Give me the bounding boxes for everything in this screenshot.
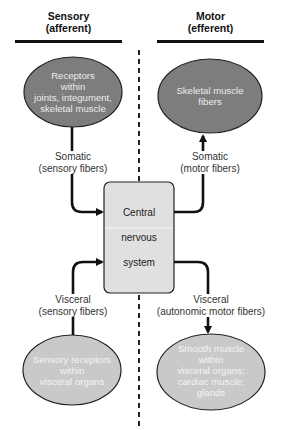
oval-line: visceral organs; [158,365,264,376]
sensory-header-subtitle: (afferent) [15,23,122,35]
motor-header-subtitle: (efferent) [157,23,264,35]
oval-line: fibers [158,96,262,107]
visceral-motor-label: Visceral (autonomic motor fibers) [154,294,268,317]
somatic-receptors-label: Receptors within joints, integument, ske… [23,70,123,114]
cns-label-central: Central [104,207,174,218]
edge-label-line: (sensory fibers) [28,163,118,175]
oval-line: Sensory receptors [22,354,122,365]
sensory-header: Sensory (afferent) [15,11,122,34]
edge-label-line: Visceral [30,294,116,306]
somatic-motor-label: Somatic (motor fibers) [172,151,248,174]
sensory-header-bar [15,40,122,43]
edge-label-line: (motor fibers) [172,163,248,175]
nervous-system-diagram: Sensory (afferent) Motor (efferent) Rece… [0,0,282,430]
oval-line: within [158,354,264,365]
visceral-sensory-label: Visceral (sensory fibers) [30,294,116,317]
oval-line: within [22,365,122,376]
oval-line: within [23,81,123,92]
somatic-motor-arrow [174,136,203,212]
oval-line: Skeletal muscle [158,85,262,96]
oval-line: Receptors [23,70,123,81]
edge-label-line: Somatic [55,151,91,163]
oval-line: Smooth muscle [158,343,264,354]
oval-line: glands [158,387,264,398]
cns-label-nervous: nervous [104,232,174,243]
edge-label-line: Somatic [172,151,248,163]
cns-label-system: system [104,257,174,268]
somatic-sensory-label: Somatic (sensory fibers) [28,151,118,174]
sensory-header-title: Sensory [15,11,122,23]
oval-line: visceral organs [22,376,122,387]
motor-header-title: Motor [157,11,264,23]
oval-line: joints, integument, [23,92,123,103]
oval-line: cardiac muscle; [158,376,264,387]
edge-label-line: (sensory fibers) [30,306,116,318]
edge-label-line: Visceral [154,294,268,306]
visceral-receptors-label: Sensory receptors within visceral organs [22,354,122,387]
skeletal-muscle-label: Skeletal muscle fibers [158,85,262,107]
oval-line: skeletal muscle [23,103,123,114]
smooth-muscle-label: Smooth muscle within visceral organs; ca… [158,343,264,398]
edge-label-line: (autonomic motor fibers) [154,306,268,318]
motor-header-bar [157,40,264,43]
motor-header: Motor (efferent) [157,11,264,34]
